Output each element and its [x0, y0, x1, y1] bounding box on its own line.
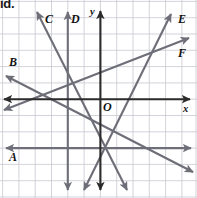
line-E [84, 14, 171, 190]
graph-canvas [0, 0, 197, 198]
coordinate-plane-figure: id. [0, 0, 197, 198]
line-label-C: C [45, 13, 53, 25]
origin-label: O [103, 101, 112, 113]
plotted-lines [4, 12, 193, 190]
x-axis-label: x [183, 103, 188, 115]
cropped-heading-fragment: id. [0, 0, 14, 10]
line-label-D: D [71, 13, 80, 25]
line-label-E: E [178, 13, 186, 25]
line-label-A: A [9, 151, 17, 163]
line-label-F: F [178, 47, 186, 59]
line-C [37, 12, 127, 190]
y-axis-label: y [90, 6, 95, 18]
line-label-B: B [9, 56, 17, 68]
